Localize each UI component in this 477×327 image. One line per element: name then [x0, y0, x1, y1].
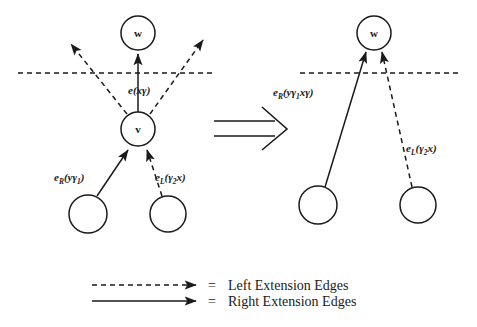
right-node-w-label: w	[370, 27, 378, 39]
left-node-bottom-right	[150, 196, 186, 232]
right-edge-label-left: eR(yγ1xγ)	[273, 86, 314, 101]
left-edge-label-lower-left: eR(yγ1)	[54, 171, 84, 186]
right-node-bottom-right	[400, 187, 436, 223]
left-edge-label-center: e(xγ)	[128, 84, 150, 97]
legend: = Left Extension Edges = Right Extension…	[92, 278, 356, 309]
left-node-bottom-left	[69, 195, 107, 233]
left-edge-bottomleft-to-v-solid	[97, 150, 128, 196]
right-edge-label-right: eL(γ2x)	[406, 142, 437, 157]
legend-label-left-extension: Left Extension Edges	[228, 278, 349, 293]
legend-equals-right: =	[208, 294, 216, 309]
left-extension-arrow-upright	[150, 40, 203, 114]
left-node-w-label: w	[134, 27, 142, 39]
right-panel: w eR(yγ1xγ) eL(γ2x)	[273, 16, 462, 224]
left-node-v-label: v	[135, 123, 141, 135]
diagram-canvas: w v e(xγ) eR(yγ1) eL(γ2x)	[0, 0, 477, 327]
left-panel: w v e(xγ) eR(yγ1) eL(γ2x)	[18, 16, 215, 233]
legend-label-right-extension: Right Extension Edges	[228, 294, 356, 309]
left-extension-arrow-upleft	[71, 44, 127, 114]
implies-arrow	[214, 107, 287, 150]
right-node-bottom-left	[299, 186, 337, 224]
right-edge-bottomright-to-w-dashed	[382, 52, 412, 187]
legend-equals-left: =	[208, 278, 216, 293]
extension-edge-diagram: w v e(xγ) eR(yγ1) eL(γ2x)	[0, 0, 477, 327]
left-edge-label-lower-right: eL(γ2x)	[155, 171, 186, 186]
